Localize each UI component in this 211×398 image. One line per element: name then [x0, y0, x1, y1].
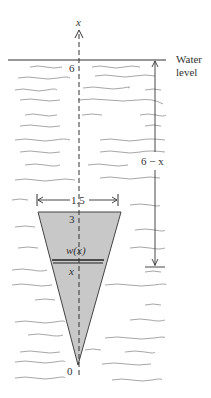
top-value: 3 [69, 213, 75, 225]
surface-value: 6 [69, 62, 75, 74]
origin-value: 0 [67, 365, 73, 377]
width-label: 1.5 [71, 194, 85, 206]
water-level-label-line1: Water [176, 53, 202, 65]
axis-label: x [75, 16, 81, 28]
submerged-plate-diagram: x Water level 6 6 − x 1.5 3 w(x) x 0 [0, 0, 211, 398]
depth-label: 6 − x [141, 155, 164, 167]
strip-width-label: w(x) [66, 244, 86, 257]
strip-position-label: x [68, 265, 74, 277]
water-level-label-line2: level [176, 66, 197, 78]
